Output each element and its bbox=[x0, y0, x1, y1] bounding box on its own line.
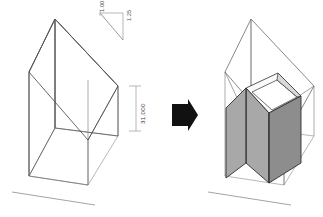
diagram-canvas: 1.00 1.25 31.000 bbox=[0, 0, 323, 217]
slope-rise-label: 1.25 bbox=[126, 10, 132, 21]
height-dimension: 31.000 bbox=[129, 86, 146, 131]
massing-panel bbox=[208, 19, 314, 205]
height-dimension-label: 31.000 bbox=[139, 103, 146, 124]
building-massing-solid bbox=[226, 73, 301, 183]
envelope-ridge-left bbox=[29, 19, 118, 140]
massing-front-face-lower bbox=[226, 88, 246, 178]
ground-line-right bbox=[208, 192, 291, 205]
diagram-svg: 1.00 1.25 31.000 bbox=[0, 0, 323, 217]
transform-arrow bbox=[172, 99, 198, 131]
slope-run-label: 1.00 bbox=[99, 1, 105, 12]
slope-ratio-annotation: 1.00 1.25 bbox=[99, 1, 132, 40]
envelope-panel bbox=[12, 19, 118, 205]
lot-base-left bbox=[29, 128, 118, 185]
ground-line-left bbox=[12, 192, 95, 205]
